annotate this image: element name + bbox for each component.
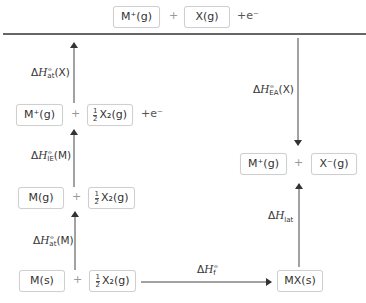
label-atomisation-m: ΔH⦵at(M) — [33, 234, 74, 248]
species-box-row2-m-plus: M⁺(g) — [16, 104, 63, 126]
fraction-half: 12 — [96, 274, 100, 289]
species-box-right-m-plus: M⁺(g) — [240, 153, 287, 175]
plus-sign: + — [73, 270, 82, 290]
fraction-half: 12 — [93, 108, 97, 123]
label-electron-affinity: ΔH⦵EA(X) — [253, 83, 294, 97]
species-box-right-x-minus: X⁻(g) — [311, 153, 357, 175]
plus-sign: + — [71, 104, 80, 124]
species-box-top-m-plus: M⁺(g) — [113, 6, 160, 28]
fraction-half: 12 — [95, 191, 99, 206]
plus-sign: + — [72, 187, 81, 207]
species-box-row2-half-x2: 12X₂(g) — [87, 104, 133, 126]
electron-term: +e⁻ — [141, 104, 163, 124]
label-atomisation-x: ΔH⦵at(X) — [31, 66, 70, 80]
plus-sign: + — [169, 6, 178, 26]
species-box-row3-half-x2: 12X₂(g) — [88, 187, 135, 209]
plus-sign: + — [294, 153, 303, 173]
label-formation: ΔH⦵f — [197, 263, 219, 277]
electron-term: +e⁻ — [237, 6, 259, 26]
species-box-product-mx: MX(s) — [277, 270, 323, 292]
label-lattice: ΔHlat — [268, 209, 293, 224]
species-box-row3-m-gas: M(g) — [18, 187, 64, 209]
species-box-row4-m-solid: M(s) — [19, 270, 65, 292]
label-ionisation-m: ΔH⦵IE(M) — [31, 149, 71, 163]
species-box-top-x: X(g) — [184, 6, 230, 28]
species-box-row4-half-x2: 12X₂(g) — [89, 270, 136, 292]
